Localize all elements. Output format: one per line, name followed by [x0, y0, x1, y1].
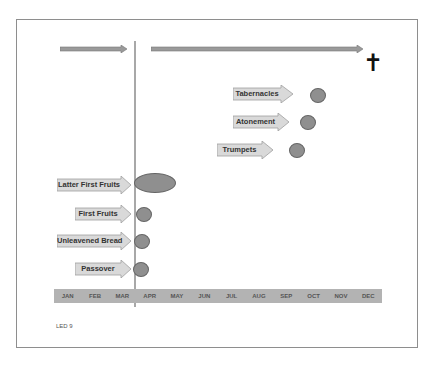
- month-jan: JAN: [54, 289, 81, 303]
- month-dec: DEC: [355, 289, 382, 303]
- month-aug: AUG: [245, 289, 272, 303]
- month-mar: MAR: [109, 289, 136, 303]
- feast-label-trumpets: Trumpets: [217, 141, 273, 159]
- feast-label-passover: Passover: [75, 260, 131, 278]
- month-feb: FEB: [81, 289, 108, 303]
- feast-marker-tabernacles: [310, 88, 326, 103]
- month-jul: JUL: [218, 289, 245, 303]
- feast-label-tabernacles: Tabernacles: [233, 85, 293, 103]
- month-axis: JAN FEB MAR APR MAY JUN JUL AUG SEP OCT …: [54, 289, 382, 303]
- feast-label-latter-first-fruits: Latter First Fruits: [57, 176, 131, 194]
- cross-icon: ✝: [363, 51, 383, 75]
- feast-label-atonement: Atonement: [233, 113, 289, 131]
- timeline-arrow-after: [151, 45, 363, 53]
- feast-label-unleavened-bread: Unleavened Bread: [57, 232, 131, 250]
- feast-marker-first-fruits: [136, 207, 152, 222]
- feast-marker-passover: [133, 262, 149, 277]
- diagram-frame: ✝ Tabernacles Atonement Trumpets Latter …: [16, 19, 418, 348]
- month-may: MAY: [163, 289, 190, 303]
- month-sep: SEP: [273, 289, 300, 303]
- timeline-arrow-before: [60, 45, 127, 53]
- feast-label-first-fruits: First Fruits: [75, 205, 131, 223]
- feast-marker-unleavened-bread: [134, 234, 150, 249]
- feast-marker-atonement: [300, 115, 316, 130]
- footer-note: LED 9: [56, 323, 73, 329]
- month-oct: OCT: [300, 289, 327, 303]
- feast-marker-trumpets: [289, 143, 305, 158]
- month-jun: JUN: [191, 289, 218, 303]
- month-apr: APR: [136, 289, 163, 303]
- feast-marker-latter-first-fruits: [134, 173, 176, 193]
- month-nov: NOV: [327, 289, 354, 303]
